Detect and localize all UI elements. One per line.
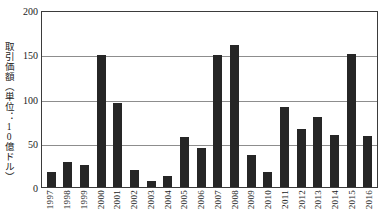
bar-1999[interactable] — [80, 165, 89, 187]
x-tick-label: 2010 — [263, 190, 273, 209]
bar-2015[interactable] — [347, 54, 356, 187]
bar-2005[interactable] — [180, 137, 189, 187]
x-tick-label: 2015 — [347, 190, 357, 209]
x-tick-label: 1997 — [45, 190, 55, 209]
x-tick-label: 2001 — [112, 190, 122, 209]
bar-2006[interactable] — [197, 148, 206, 187]
bar-slot — [143, 12, 160, 187]
bar-2016[interactable] — [363, 136, 372, 187]
x-slot: 2008 — [226, 190, 243, 222]
x-tick-label: 2014 — [330, 190, 340, 209]
x-tick-label: 2012 — [297, 190, 307, 209]
x-tick-label: 2000 — [96, 190, 106, 209]
x-slot: 2015 — [344, 190, 361, 222]
x-tick-label: 2013 — [313, 190, 323, 209]
bar-2007[interactable] — [213, 55, 222, 187]
x-slot: 2001 — [109, 190, 126, 222]
bar-1997[interactable] — [47, 172, 56, 187]
bar-slot — [110, 12, 127, 187]
bar-2000[interactable] — [97, 55, 106, 187]
x-tick-label: 2008 — [230, 190, 240, 209]
x-tick-label: 2006 — [196, 190, 206, 209]
bar-slot — [93, 12, 110, 187]
x-slot: 1998 — [59, 190, 76, 222]
x-tick-label: 2009 — [246, 190, 256, 209]
x-tick-label: 2016 — [364, 190, 374, 209]
bar-slot — [343, 12, 360, 187]
bar-2012[interactable] — [297, 129, 306, 187]
bar-slot — [326, 12, 343, 187]
bar-slot — [276, 12, 293, 187]
bar-slot — [193, 12, 210, 187]
bar-2001[interactable] — [113, 103, 122, 187]
bars-container — [42, 12, 377, 187]
plot-area — [41, 11, 378, 188]
x-tick-label: 2002 — [129, 190, 139, 209]
x-slot: 2012 — [293, 190, 310, 222]
bar-2009[interactable] — [247, 155, 256, 187]
x-slot: 1997 — [42, 190, 59, 222]
x-tick-label: 1998 — [62, 190, 72, 209]
x-slot: 2011 — [277, 190, 294, 222]
y-tick-label: 200 — [12, 6, 38, 17]
x-slot: 2006 — [193, 190, 210, 222]
x-slot: 1999 — [76, 190, 93, 222]
x-slot: 2016 — [360, 190, 377, 222]
y-tick-label: 50 — [12, 138, 38, 149]
bar-slot — [60, 12, 77, 187]
x-slot: 2005 — [176, 190, 193, 222]
x-slot: 2004 — [159, 190, 176, 222]
bar-slot — [76, 12, 93, 187]
bar-1998[interactable] — [63, 162, 72, 187]
x-slot: 2009 — [243, 190, 260, 222]
bar-slot — [243, 12, 260, 187]
x-tick-label: 2007 — [213, 190, 223, 209]
bar-slot — [160, 12, 177, 187]
bar-chart: 取引価額（単位：10億ドル） 050100150200 199719981999… — [0, 0, 383, 222]
bar-slot — [293, 12, 310, 187]
bar-slot — [359, 12, 376, 187]
x-slot: 2014 — [327, 190, 344, 222]
bar-2002[interactable] — [130, 170, 139, 187]
x-tick-label: 2005 — [179, 190, 189, 209]
x-axis-tick-labels: 1997199819992000200120022003200420052006… — [41, 190, 378, 222]
x-slot: 2007 — [210, 190, 227, 222]
x-slot: 2013 — [310, 190, 327, 222]
y-tick-label: 100 — [12, 94, 38, 105]
bar-slot — [310, 12, 327, 187]
x-slot: 2010 — [260, 190, 277, 222]
y-tick-label: 150 — [12, 50, 38, 61]
bar-slot — [226, 12, 243, 187]
bar-slot — [210, 12, 227, 187]
x-slot: 2002 — [126, 190, 143, 222]
x-tick-label: 2004 — [163, 190, 173, 209]
x-slot: 2003 — [143, 190, 160, 222]
x-tick-label: 1999 — [79, 190, 89, 209]
x-tick-label: 2011 — [280, 190, 290, 209]
bar-2010[interactable] — [263, 172, 272, 187]
bar-2013[interactable] — [313, 117, 322, 187]
bar-2008[interactable] — [230, 45, 239, 187]
bar-slot — [260, 12, 277, 187]
x-tick-label: 2003 — [146, 190, 156, 209]
bar-2003[interactable] — [147, 181, 156, 187]
bar-2014[interactable] — [330, 135, 339, 187]
bar-slot — [126, 12, 143, 187]
y-axis-tick-labels: 050100150200 — [10, 0, 38, 222]
bar-2004[interactable] — [163, 176, 172, 187]
y-tick-label: 0 — [12, 183, 38, 194]
bar-slot — [43, 12, 60, 187]
bar-slot — [176, 12, 193, 187]
x-slot: 2000 — [92, 190, 109, 222]
bar-2011[interactable] — [280, 107, 289, 187]
